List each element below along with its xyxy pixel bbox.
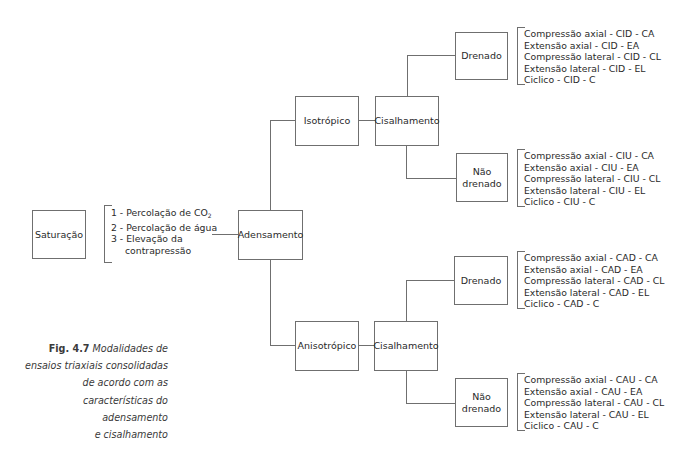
cisalhamento-box-2: Cisalhamento xyxy=(374,321,438,371)
saturation-step-2: 2 - Percolação de água xyxy=(111,222,217,234)
test-item: Extensão axial - CIU - EA xyxy=(524,162,661,174)
connector-anisotropico-cisalhamento xyxy=(359,345,374,346)
drenado-label-2: Drenado xyxy=(461,275,502,287)
anisotropico-box: Anisotrópico xyxy=(295,321,359,371)
caption-line-3: de acordo com as xyxy=(83,377,168,388)
isotropico-label: Isotrópico xyxy=(304,115,351,127)
nao-drenado-box-1: Não drenado xyxy=(456,153,508,202)
nao-drenado-label-1b: drenado xyxy=(462,178,501,190)
nao-drenado-label-2a: Não xyxy=(472,391,491,403)
saturacao-box: Saturação xyxy=(32,210,86,259)
cisalhamento-label-1: Cisalhamento xyxy=(374,115,439,127)
anisotropico-label: Anisotrópico xyxy=(298,340,357,352)
cisalhamento-label-2: Cisalhamento xyxy=(373,340,438,352)
connector-cis1-naodrenado xyxy=(406,178,456,179)
test-item: Ciclico - CIU - C xyxy=(524,196,661,208)
test-item: Ciclico - CAU - C xyxy=(524,420,664,432)
test-item: Compressão axial - CAU - CA xyxy=(524,374,664,386)
connector-adensamento-down xyxy=(270,260,271,346)
connector-cis2-drenado xyxy=(406,280,454,281)
drenado-box-2: Drenado xyxy=(454,256,508,305)
test-item: Ciclico - CID - C xyxy=(524,74,661,86)
saturation-step-3: 3 - Elevação da xyxy=(111,233,217,245)
caption-line-2: ensaios triaxiais consolidadas xyxy=(25,360,168,371)
test-item: Extensão lateral - CAU - EL xyxy=(524,409,664,421)
nao-drenado-label-2b: drenado xyxy=(462,403,501,415)
test-item: Compressão axial - CAD - CA xyxy=(524,252,664,264)
test-item: Compressão lateral - CID - CL xyxy=(524,51,661,63)
figure-label: Fig. 4.7 xyxy=(49,343,90,354)
adensamento-box: Adensamento xyxy=(238,210,303,260)
saturation-step-1: 1 - Percolação de CO2 xyxy=(111,207,217,222)
test-item: Extensão axial - CAU - EA xyxy=(524,386,664,398)
tests-list-cau: Compressão axial - CAU - CA Extensão axi… xyxy=(519,374,664,432)
test-item: Extensão lateral - CID - EL xyxy=(524,63,661,75)
connector-adensamento-up xyxy=(270,120,271,210)
saturation-step-3-cont: contrapressão xyxy=(111,245,217,257)
saturacao-label: Saturação xyxy=(35,229,83,241)
caption-line-1: Modalidades de xyxy=(93,343,168,354)
connector-steps-adensamento xyxy=(212,234,239,235)
saturation-steps-list: 1 - Percolação de CO2 2 - Percolação de … xyxy=(106,207,217,256)
test-item: Extensão axial - CID - EA xyxy=(524,40,661,52)
connector-cis2-naodrenado xyxy=(406,403,455,404)
connector-to-isotropico xyxy=(270,120,296,121)
test-item: Extensão lateral - CIU - EL xyxy=(524,185,661,197)
connector-isotropico-cisalhamento xyxy=(359,120,375,121)
cisalhamento-box-1: Cisalhamento xyxy=(375,96,439,146)
test-item: Compressão lateral - CIU - CL xyxy=(524,173,661,185)
test-item: Extensão lateral - CAD - EL xyxy=(524,287,664,299)
tests-list-cid: Compressão axial - CID - CA Extensão axi… xyxy=(519,28,661,86)
connector-cis1-down xyxy=(406,146,407,178)
drenado-box-1: Drenado xyxy=(455,32,508,80)
test-item: Compressão lateral - CAD - CL xyxy=(524,275,664,287)
nao-drenado-box-2: Não drenado xyxy=(455,378,508,427)
test-item: Compressão lateral - CAU - CL xyxy=(524,397,664,409)
adensamento-label: Adensamento xyxy=(238,229,304,241)
tests-list-ciu: Compressão axial - CIU - CA Extensão axi… xyxy=(519,150,661,208)
connector-cis2-down xyxy=(406,371,407,403)
tests-list-cad: Compressão axial - CAD - CA Extensão axi… xyxy=(519,252,664,310)
connector-to-anisotropico xyxy=(270,345,296,346)
connector-cis1-up xyxy=(407,55,408,96)
caption-line-4: características do adensamento xyxy=(83,395,168,423)
figure-caption: Fig. 4.7 Modalidades de ensaios triaxiai… xyxy=(18,340,168,443)
drenado-label-1: Drenado xyxy=(461,50,502,62)
test-item: Extensão axial - CAD - EA xyxy=(524,264,664,276)
connector-cis2-up xyxy=(406,280,407,321)
isotropico-box: Isotrópico xyxy=(295,96,359,146)
connector-cis1-drenado xyxy=(407,55,455,56)
nao-drenado-label-1a: Não xyxy=(473,166,492,178)
caption-line-5: e cisalhamento xyxy=(95,429,168,440)
test-item: Compressão axial - CID - CA xyxy=(524,28,661,40)
test-item: Compressão axial - CIU - CA xyxy=(524,150,661,162)
test-item: Ciclico - CAD - C xyxy=(524,298,664,310)
